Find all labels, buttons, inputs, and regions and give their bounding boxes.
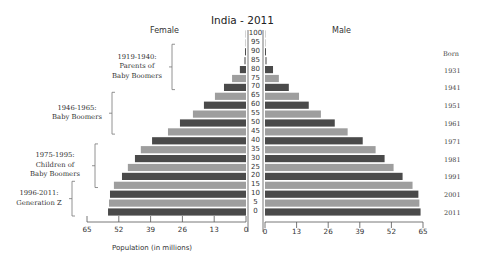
born-year-label: 1931 (444, 67, 461, 75)
female-bar-age-5 (109, 200, 246, 207)
age-tick-label: 30 (247, 154, 265, 162)
male-bar-age-15 (265, 182, 413, 189)
male-bar-age-25 (265, 164, 394, 171)
x-tick-label-left: 39 (141, 225, 161, 234)
age-tick-label: 10 (247, 189, 265, 197)
x-tick-label-right: 65 (413, 227, 433, 236)
female-bar-age-50 (180, 119, 246, 126)
male-bar-age-90 (265, 48, 266, 55)
age-tick-label: 35 (247, 145, 265, 153)
female-bar-age-45 (168, 128, 246, 135)
bracket (69, 181, 75, 216)
male-bar-age-20 (265, 173, 403, 180)
x-tick-label-left: 0 (236, 225, 256, 234)
generation-annotation: 1919-1940:Parents ofBaby Boomers (107, 53, 167, 82)
bracket (109, 92, 115, 134)
female-bar-age-70 (224, 84, 246, 91)
x-tick-label-left: 26 (172, 225, 192, 234)
male-bar-age-30 (265, 155, 385, 162)
age-tick-label: 90 (247, 47, 265, 55)
female-bar-age-40 (152, 137, 246, 144)
generation-annotation: 1946-1965:Baby Boomers (47, 104, 107, 123)
male-bar-age-5 (265, 200, 419, 207)
male-bar-age-60 (265, 102, 309, 109)
bracket (169, 44, 175, 89)
age-tick-label: 80 (247, 65, 265, 73)
x-tick-label-right: 13 (287, 227, 307, 236)
male-bar-age-75 (265, 75, 279, 82)
age-tick-label: 5 (247, 198, 265, 206)
x-tick-label-left: 65 (77, 225, 97, 234)
male-bar-age-80 (265, 66, 273, 73)
age-tick-label: 65 (247, 91, 265, 99)
age-tick-label: 85 (247, 56, 265, 64)
age-tick-label: 100 (247, 29, 265, 37)
male-bar-age-55 (265, 111, 321, 118)
female-bar-age-25 (128, 164, 246, 171)
generation-annotation: 1975-1995:Children ofBaby Boomers (20, 151, 90, 180)
male-bars (265, 30, 421, 215)
x-tick-label-right: 0 (255, 227, 275, 236)
male-bar-age-40 (265, 137, 363, 144)
x-tick-label-left: 13 (204, 225, 224, 234)
population-pyramid-chart (0, 0, 485, 262)
female-bar-age-80 (240, 66, 246, 73)
age-tick-label: 20 (247, 171, 265, 179)
age-tick-label: 15 (247, 180, 265, 188)
born-year-label: 1951 (444, 102, 461, 110)
bracket (92, 144, 98, 188)
age-tick-label: 60 (247, 100, 265, 108)
female-bar-age-20 (122, 173, 246, 180)
born-year-label: 2001 (444, 191, 461, 199)
female-bar-age-15 (114, 182, 246, 189)
born-year-label: 1971 (444, 138, 461, 146)
x-tick-label-right: 26 (318, 227, 338, 236)
female-bar-age-30 (135, 155, 246, 162)
male-bar-age-10 (265, 191, 418, 198)
born-year-label: 1961 (444, 120, 461, 128)
age-tick-label: 75 (247, 74, 265, 82)
age-tick-label: 70 (247, 82, 265, 90)
female-bar-age-60 (204, 102, 246, 109)
age-tick-label: 25 (247, 163, 265, 171)
x-tick-label-right: 39 (350, 227, 370, 236)
male-bar-age-70 (265, 84, 289, 91)
generation-annotation: 1996-2011:Generation Z (11, 189, 67, 208)
born-year-label: 2011 (444, 209, 461, 217)
born-year-label: 1991 (444, 173, 461, 181)
male-bar-age-0 (265, 208, 421, 215)
age-tick-label: 0 (247, 207, 265, 215)
age-tick-label: 40 (247, 136, 265, 144)
age-tick-label: 55 (247, 109, 265, 117)
male-bar-age-85 (265, 57, 267, 64)
male-bar-age-65 (265, 93, 299, 100)
female-bar-age-10 (110, 191, 246, 198)
age-tick-label: 45 (247, 127, 265, 135)
born-axis-title: Born (443, 50, 459, 58)
female-bar-age-35 (141, 146, 246, 153)
female-bar-age-65 (215, 93, 246, 100)
female-bar-age-55 (193, 111, 246, 118)
male-bar-age-45 (265, 128, 348, 135)
x-axis-label: Population (in millions) (112, 244, 192, 252)
x-tick-label-right: 52 (381, 227, 401, 236)
born-year-label: 1941 (444, 84, 461, 92)
x-tick-label-left: 52 (109, 225, 129, 234)
female-bar-age-0 (108, 208, 246, 215)
male-bar-age-35 (265, 146, 376, 153)
age-tick-label: 50 (247, 118, 265, 126)
female-bar-age-75 (232, 75, 246, 82)
male-bar-age-50 (265, 119, 335, 126)
age-tick-label: 95 (247, 38, 265, 46)
born-year-label: 1981 (444, 156, 461, 164)
